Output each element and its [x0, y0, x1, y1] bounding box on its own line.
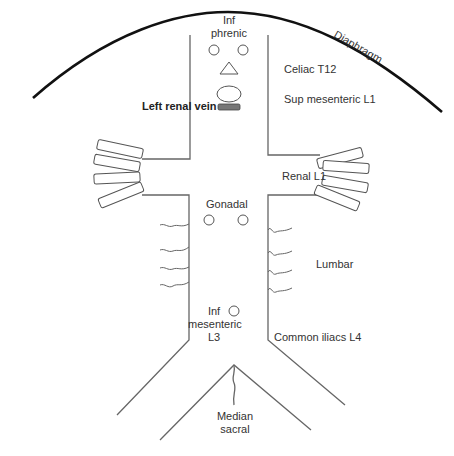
label-median-sacral-line1: Median	[210, 410, 260, 423]
gonadal-right-icon	[238, 215, 248, 225]
aorta-diagram: Diaphragm Inf phrenic Celiac T12 Sup mes…	[0, 0, 454, 456]
inf-phrenic-right-icon	[238, 45, 248, 55]
label-celiac: Celiac T12	[284, 63, 336, 76]
label-median-sacral-line2: sacral	[210, 423, 260, 436]
label-inf-phrenic: Inf phrenic	[209, 14, 249, 40]
left-renal-tubes	[93, 139, 144, 208]
label-common-iliacs: Common iliacs L4	[274, 331, 361, 344]
lumbar-branches-left	[160, 224, 189, 287]
left-renal-vein-bar	[218, 104, 240, 110]
label-sup-mesenteric: Sup mesenteric L1	[284, 93, 376, 106]
label-lumbar: Lumbar	[316, 258, 353, 271]
label-median-sacral: Median sacral	[210, 410, 260, 436]
label-inf-mesenteric-line1: Inf	[192, 305, 236, 318]
label-inf-mesenteric: Inf mesenteric L3	[192, 305, 236, 344]
label-gonadal: Gonadal	[206, 198, 248, 211]
lumbar-branches-right	[268, 228, 292, 292]
label-inf-phrenic-line1: Inf	[209, 14, 249, 27]
label-renal: Renal L1	[282, 170, 326, 183]
inf-phrenic-left-icon	[209, 45, 219, 55]
sup-mesenteric-oval-icon	[217, 86, 241, 102]
label-inf-mesenteric-line2: mesenteric	[188, 318, 236, 331]
gonadal-left-icon	[204, 215, 214, 225]
celiac-triangle-icon	[220, 62, 238, 74]
label-left-renal-vein: Left renal vein	[142, 100, 217, 113]
label-inf-mesenteric-line3: L3	[192, 331, 236, 344]
label-inf-phrenic-line2: phrenic	[209, 27, 249, 40]
diagram-graphics	[0, 0, 454, 456]
